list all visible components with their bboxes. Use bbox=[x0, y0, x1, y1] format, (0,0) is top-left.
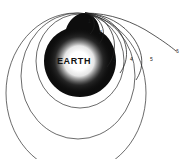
trajectory-label-3: 3 bbox=[113, 58, 116, 63]
trajectory-label-4: 4 bbox=[130, 57, 133, 62]
trajectory-label-1: 1 bbox=[88, 19, 91, 24]
trajectory-label-6: 6 bbox=[176, 49, 179, 54]
earth-body-group bbox=[44, 13, 116, 97]
newton-cannonball-diagram: EARTH 1 2 3 4 5 6 bbox=[0, 0, 191, 159]
earth-label: EARTH bbox=[57, 56, 91, 66]
trajectory-label-2: 2 bbox=[99, 30, 102, 35]
diagram-canvas bbox=[0, 0, 191, 159]
trajectory-label-5: 5 bbox=[150, 57, 153, 62]
